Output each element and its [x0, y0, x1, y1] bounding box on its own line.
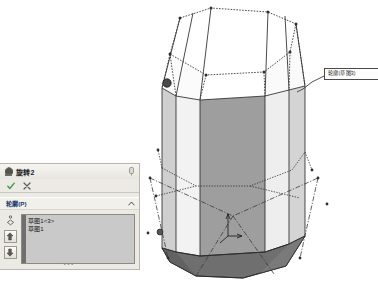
profile-callout-label: 轮廓(草图3)	[328, 70, 356, 76]
panel-resize-grip[interactable]: •••	[0, 261, 139, 267]
contour-list[interactable]: 草图1<3> 草图1	[26, 215, 134, 263]
face-left-light	[176, 96, 200, 256]
list-item[interactable]: 草图1<3>	[28, 217, 132, 225]
profile-section-header[interactable]: 轮廓(P)	[0, 197, 139, 210]
profile-section-body: 草图1<3> 草图1	[0, 210, 139, 268]
face-right-light	[265, 90, 289, 252]
revolve-feature-icon	[4, 167, 13, 177]
face-right-band	[289, 86, 305, 244]
property-manager-panel[interactable]: 旋转2 轮廓(P)	[0, 163, 140, 270]
move-up-button[interactable]	[4, 230, 17, 243]
panel-title-bar: 旋转2	[0, 164, 139, 179]
chevron-up-icon[interactable]	[128, 201, 135, 207]
panel-confirm-bar	[0, 179, 139, 193]
selected-vertex-marker-lower[interactable]	[157, 229, 163, 235]
face-center-dark	[200, 96, 265, 256]
revolved-solid[interactable]	[147, 7, 329, 279]
profile-section-title: 轮廓(P)	[6, 199, 128, 208]
panel-title: 旋转2	[16, 167, 127, 177]
contour-list-box[interactable]: 草图1<3> 草图1	[21, 214, 135, 264]
pin-icon[interactable]	[127, 167, 136, 177]
ok-button[interactable]	[6, 181, 15, 190]
profile-section: 轮廓(P)	[0, 197, 139, 268]
cancel-button[interactable]	[22, 181, 31, 190]
face-left-band	[162, 88, 176, 252]
selected-vertex-marker[interactable]	[163, 79, 171, 87]
profile-callout[interactable]: 轮廓(草图3)	[324, 68, 378, 80]
move-down-button[interactable]	[4, 246, 17, 259]
profile-gutter	[2, 214, 18, 264]
contour-select-icon[interactable]	[4, 215, 17, 227]
list-item[interactable]: 草图1	[28, 225, 132, 233]
